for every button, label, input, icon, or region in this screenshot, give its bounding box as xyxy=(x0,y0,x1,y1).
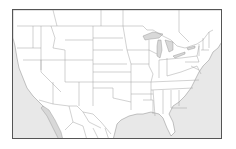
map-frame xyxy=(12,9,222,139)
land-mass xyxy=(13,10,222,139)
us-outline-map xyxy=(13,10,222,139)
